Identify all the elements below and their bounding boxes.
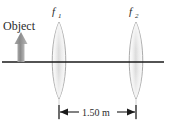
lens-1-focal-subscript: 1	[58, 12, 62, 20]
object-arrow-shaft	[18, 42, 25, 62]
object-label: Object	[3, 19, 36, 33]
lens-2-focal-subscript: 2	[135, 12, 139, 20]
distance-label: 1.50 m	[82, 107, 110, 118]
optics-two-lens-figure: Object f 1 f 2 1.50 m	[0, 0, 169, 129]
